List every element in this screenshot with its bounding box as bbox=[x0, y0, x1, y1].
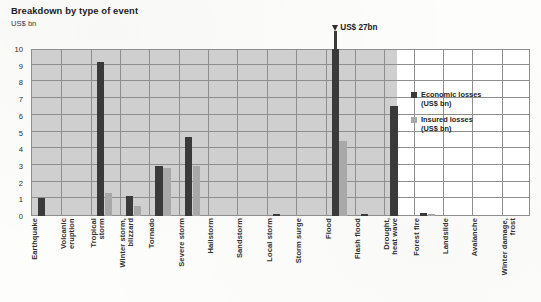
bar bbox=[126, 196, 133, 216]
bar-group bbox=[354, 49, 383, 216]
bar-group bbox=[148, 49, 177, 216]
bar bbox=[339, 141, 346, 216]
y-axis-tick-labels: 012345678910 bbox=[0, 49, 27, 216]
bar bbox=[38, 198, 45, 216]
bar-group bbox=[266, 49, 295, 216]
x-tick-label: Volcanic eruption bbox=[60, 218, 89, 249]
y-tick-label: 10 bbox=[15, 45, 23, 54]
legend-item-economic-losses: Economic losses (US$ bn) bbox=[411, 90, 481, 108]
y-tick-label: 6 bbox=[19, 111, 23, 120]
y-tick-label: 4 bbox=[19, 145, 23, 154]
x-axis-category-labels: EarthquakeVolcanic eruptionTropical stor… bbox=[31, 216, 530, 302]
y-tick-label: 2 bbox=[19, 178, 23, 187]
x-tick-label: Local storm bbox=[266, 218, 295, 262]
overflow-arrow-icon bbox=[332, 25, 338, 31]
x-tick-label: Landslide bbox=[442, 218, 471, 254]
x-tick-label: Severe storm bbox=[178, 218, 207, 267]
y-tick-label: 3 bbox=[19, 161, 23, 170]
bar-group bbox=[178, 49, 207, 216]
bar bbox=[97, 62, 104, 216]
bar bbox=[163, 168, 170, 216]
bar-group bbox=[236, 49, 265, 216]
x-tick-label: Flood bbox=[325, 218, 354, 239]
x-tick-label: Earthquake bbox=[31, 218, 60, 260]
overflow-stem bbox=[334, 31, 337, 49]
y-tick-label: 7 bbox=[19, 95, 23, 104]
y-axis-unit-label: US$ bn bbox=[11, 19, 36, 28]
bar-group bbox=[119, 49, 148, 216]
x-tick-label: Tornado bbox=[148, 218, 177, 248]
bar bbox=[185, 137, 192, 216]
bar-group: US$ 27bn bbox=[325, 49, 354, 216]
bar bbox=[134, 206, 141, 216]
x-tick-label: Tropical storm bbox=[90, 218, 119, 248]
bar bbox=[332, 49, 339, 216]
bar-group bbox=[60, 49, 89, 216]
x-tick-label: Flash flood bbox=[354, 218, 383, 259]
bar-group bbox=[295, 49, 324, 216]
legend-label: Economic losses (US$ bn) bbox=[421, 90, 481, 108]
x-tick-label: Sandstorm bbox=[236, 218, 265, 258]
bar-group bbox=[383, 49, 412, 216]
bar bbox=[105, 193, 112, 216]
x-tick-label: Drought, heat wave bbox=[383, 218, 412, 255]
legend-swatch-icon bbox=[411, 92, 417, 98]
x-tick-label: Avalanche bbox=[471, 218, 500, 256]
x-tick-label: Winter damage, frost bbox=[501, 218, 530, 275]
x-tick-label: Hailstorm bbox=[207, 218, 236, 254]
bar-group bbox=[207, 49, 236, 216]
chart-legend: Economic losses (US$ bn)Insured losses (… bbox=[411, 90, 481, 140]
x-tick-label: Storm surge bbox=[295, 218, 324, 263]
bar-group bbox=[31, 49, 60, 216]
overflow-annotation-label: US$ 27bn bbox=[340, 23, 377, 32]
legend-item-insured-losses: Insured losses (US$ bn) bbox=[411, 115, 481, 133]
bar bbox=[155, 166, 162, 216]
x-tick-label: Winter storm, blizzard bbox=[119, 218, 148, 268]
y-tick-label: 0 bbox=[19, 212, 23, 221]
legend-label: Insured losses (US$ bn) bbox=[421, 115, 473, 133]
y-tick-label: 5 bbox=[19, 128, 23, 137]
y-tick-label: 9 bbox=[19, 61, 23, 70]
legend-swatch-icon bbox=[411, 117, 417, 123]
x-tick-label: Forest fire bbox=[413, 218, 442, 256]
bar bbox=[390, 106, 397, 216]
bar bbox=[193, 166, 200, 216]
y-tick-label: 8 bbox=[19, 78, 23, 87]
y-tick-label: 1 bbox=[19, 195, 23, 204]
bar-group bbox=[90, 49, 119, 216]
bar-group bbox=[501, 49, 530, 216]
page-title: Breakdown by type of event bbox=[11, 5, 138, 16]
